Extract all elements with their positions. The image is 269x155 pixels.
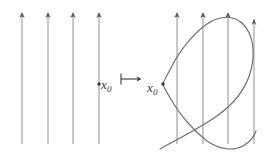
right-point-x0-dot xyxy=(161,82,164,85)
left-point-label-x0: x0 xyxy=(101,78,111,94)
left-point-label-base: x xyxy=(101,77,107,92)
right-point-label-subscript: 0 xyxy=(153,87,158,97)
integral-curve xyxy=(160,17,256,149)
maps-to-icon xyxy=(119,71,143,87)
left-point-label-subscript: 0 xyxy=(107,84,112,94)
right-panel-group xyxy=(160,13,256,149)
right-point-label-x0: x0 xyxy=(147,81,157,97)
right-point-label-base: x xyxy=(147,80,153,95)
maps-to-glyph xyxy=(119,71,143,87)
figure-canvas: x0 x0 xyxy=(0,0,269,155)
left-panel-group xyxy=(22,13,101,144)
